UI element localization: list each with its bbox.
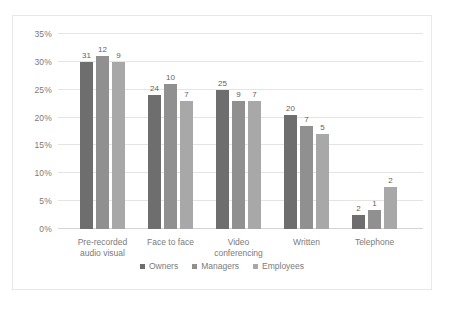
legend-label: Owners — [149, 261, 178, 271]
bar-group: 24107Face to face — [148, 34, 193, 229]
chart-container: 0%5%10%15%20%25%30%35%31129Pre-recordeda… — [12, 15, 432, 290]
bar-value-label: 2 — [356, 204, 360, 213]
bar-value-label: 1 — [372, 199, 376, 208]
bar-value-label: 12 — [98, 45, 107, 54]
bar[interactable]: 31 — [80, 62, 93, 229]
chart-legend: OwnersManagersEmployees — [13, 261, 431, 271]
legend-label: Employees — [262, 261, 304, 271]
bar-value-label: 9 — [236, 90, 240, 99]
y-axis-tick-label: 10% — [34, 168, 52, 178]
bar-group: 2597Videoconferencing — [216, 34, 261, 229]
bar-value-label: 7 — [184, 90, 188, 99]
y-axis-tick-label: 5% — [39, 196, 52, 206]
x-axis-category-label: Telephone — [327, 237, 423, 248]
bar-value-label: 31 — [82, 51, 91, 60]
bar[interactable]: 12 — [96, 56, 109, 229]
y-axis-tick-label: 25% — [34, 85, 52, 95]
plot-area: 0%5%10%15%20%25%30%35%31129Pre-recordeda… — [58, 34, 423, 229]
y-axis-tick-label: 0% — [39, 224, 52, 234]
bar-value-label: 25 — [218, 79, 227, 88]
y-axis-tick-label: 30% — [34, 57, 52, 67]
bar-group: 212Telephone — [352, 34, 397, 229]
bar[interactable]: 5 — [316, 134, 329, 229]
bar[interactable]: 2 — [352, 215, 365, 229]
bar[interactable]: 2 — [384, 187, 397, 229]
bar-value-label: 2 — [388, 176, 392, 185]
bar[interactable]: 9 — [112, 62, 125, 229]
bar[interactable]: 20 — [284, 115, 297, 229]
x-axis-category-line: audio visual — [55, 248, 151, 259]
legend-item[interactable]: Managers — [192, 261, 239, 271]
bar[interactable]: 24 — [148, 95, 161, 229]
bar-value-label: 9 — [116, 51, 120, 60]
bar-group: 2075Written — [284, 34, 329, 229]
bar-value-label: 24 — [150, 84, 159, 93]
legend-item[interactable]: Employees — [253, 261, 304, 271]
bar-value-label: 20 — [286, 104, 295, 113]
y-axis-tick-label: 35% — [34, 29, 52, 39]
y-axis-tick-label: 15% — [34, 140, 52, 150]
bar[interactable]: 7 — [248, 101, 261, 229]
bar[interactable]: 1 — [368, 210, 381, 230]
legend-swatch-icon — [253, 264, 258, 269]
x-axis-category-line: conferencing — [191, 248, 287, 259]
bar-value-label: 10 — [166, 73, 175, 82]
x-axis-category-line: Telephone — [327, 237, 423, 248]
legend-item[interactable]: Owners — [140, 261, 178, 271]
bar[interactable]: 10 — [164, 84, 177, 229]
y-axis-tick-label: 20% — [34, 113, 52, 123]
bar-group: 31129Pre-recordedaudio visual — [80, 34, 125, 229]
bar-value-label: 7 — [252, 90, 256, 99]
bar[interactable]: 7 — [300, 126, 313, 229]
legend-swatch-icon — [140, 264, 145, 269]
legend-label: Managers — [201, 261, 239, 271]
bar[interactable]: 7 — [180, 101, 193, 229]
bar-value-label: 5 — [320, 123, 324, 132]
bar[interactable]: 25 — [216, 90, 229, 229]
legend-swatch-icon — [192, 264, 197, 269]
bar[interactable]: 9 — [232, 101, 245, 229]
bar-value-label: 7 — [304, 115, 308, 124]
